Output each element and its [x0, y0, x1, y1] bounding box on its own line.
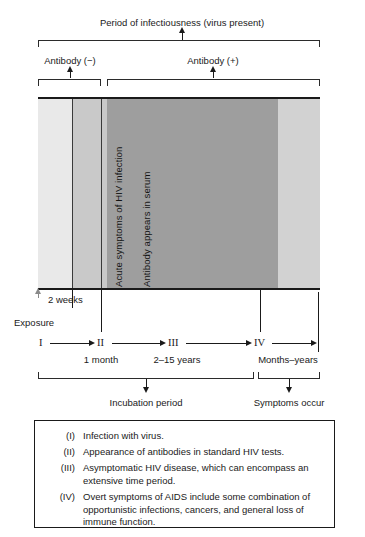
- acute-symptoms-divider: [72, 99, 73, 288]
- legend-text-iv: Overt symptoms of AIDS include some comb…: [75, 491, 327, 529]
- incubation-period-label: Incubation period: [110, 398, 183, 408]
- legend-numeral-i: (I): [43, 430, 75, 443]
- legend-text-i: Infection with virus.: [75, 430, 164, 443]
- stage-numeral-iii: III: [168, 337, 179, 348]
- stage-arrow-i-ii-stem: [50, 343, 90, 344]
- stage-arrow-iii-iv-icon: [246, 340, 252, 346]
- stage-arrow-iii-iv-stem: [186, 343, 248, 344]
- incubation-arrow-icon: [143, 387, 149, 393]
- legend-item-iv: (IV) Overt symptoms of AIDS include some…: [43, 491, 327, 529]
- stage-numeral-iv: IV: [254, 337, 265, 348]
- exposure-arrow-icon: [35, 288, 41, 294]
- antibody-positive-arrow-icon: [210, 66, 216, 72]
- stage-numeral-ii: II: [97, 337, 104, 348]
- exposure-label: Exposure: [14, 318, 54, 328]
- antibody-serum-vertical-label: Antibody appears in serum: [141, 171, 152, 287]
- legend-item-i: (I) Infection with virus.: [43, 430, 327, 443]
- stage-arrow-iv-end-icon: [311, 340, 317, 346]
- stage-numeral-i: I: [39, 337, 43, 348]
- tick-stage-iv: [260, 290, 261, 332]
- band-aids-symptoms: [278, 99, 320, 288]
- antibody-positive-label: Antibody (+): [187, 56, 239, 66]
- antibody-negative-label: Antibody (−): [44, 56, 96, 66]
- stage-legend-box: (I) Infection with virus. (II) Appearanc…: [34, 420, 335, 528]
- symptoms-occur-label: Symptoms occur: [254, 398, 325, 408]
- legend-text-ii: Appearance of antibodies in standard HIV…: [75, 446, 284, 459]
- symptoms-arrow-icon: [286, 387, 292, 393]
- band-pre-acute: [38, 99, 72, 288]
- stage-duration-iii: 2–15 years: [153, 355, 200, 365]
- tick-acute-symptoms: [72, 290, 73, 308]
- stage-duration-ii: 1 month: [84, 355, 118, 365]
- stage-arrow-iv-end-stem: [272, 343, 313, 344]
- stage-arrow-ii-iii-icon: [160, 340, 166, 346]
- antibody-negative-bracket: [38, 79, 101, 86]
- legend-item-ii: (II) Appearance of antibodies in standar…: [43, 446, 327, 459]
- tick-stage-ii: [101, 290, 102, 332]
- infectiousness-bracket: [38, 40, 320, 47]
- antibody-serum-divider: [101, 99, 102, 288]
- legend-numeral-iv: (IV): [43, 491, 75, 529]
- symptoms-bracket: [258, 372, 320, 379]
- two-weeks-label: 2 weeks: [48, 295, 83, 305]
- antibody-positive-bracket: [107, 79, 320, 86]
- incubation-bracket: [38, 372, 254, 379]
- legend-item-iii: (III) Asymptomatic HIV disease, which ca…: [43, 462, 327, 487]
- stage-arrow-ii-iii-stem: [112, 343, 162, 344]
- infectiousness-arrow-icon: [179, 27, 185, 33]
- legend-numeral-ii: (II): [43, 446, 75, 459]
- band-antibody-positive: [107, 99, 278, 288]
- stage-arrow-i-ii-icon: [89, 340, 95, 346]
- timeline-end-tick: [318, 292, 319, 352]
- acute-symptoms-vertical-label: Acute symptoms of HIV infection: [113, 147, 124, 287]
- infection-phase-band: Acute symptoms of HIV infection Antibody…: [38, 97, 320, 290]
- legend-numeral-iii: (III): [43, 462, 75, 487]
- stage-duration-iv: Months–years: [258, 355, 318, 365]
- antibody-negative-arrow-icon: [67, 66, 73, 72]
- legend-text-iii: Asymptomatic HIV disease, which can enco…: [75, 462, 327, 487]
